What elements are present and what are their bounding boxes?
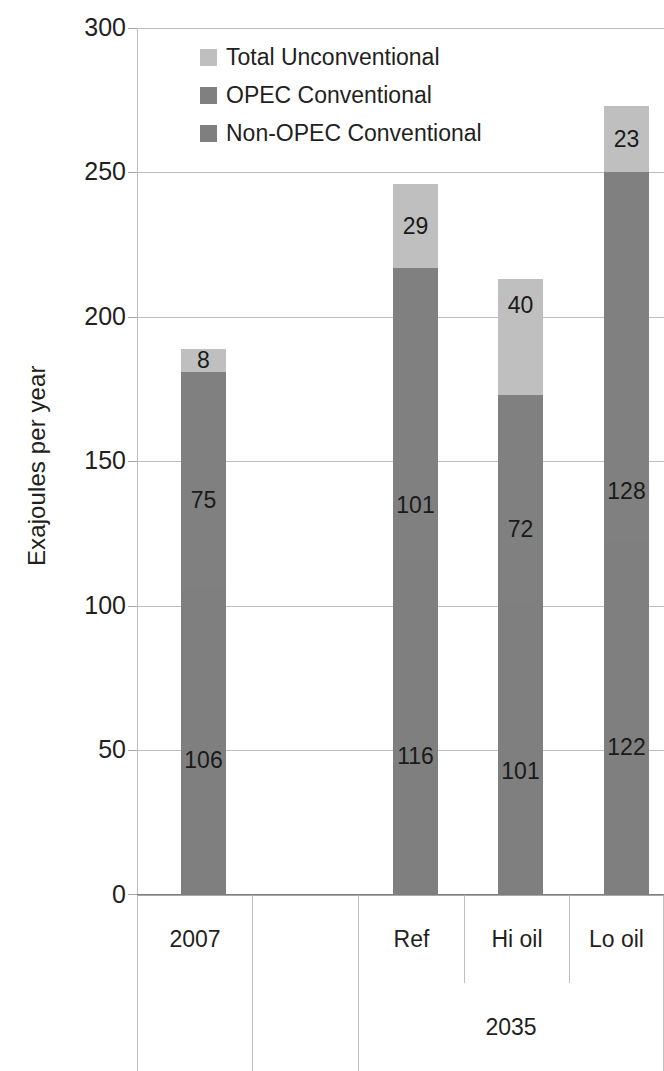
legend-label-opec-conventional: OPEC Conventional [226,84,432,107]
bar-lo-oil-segment-opec-conventional: 128 [604,172,649,542]
y-tick-150: 150 [46,448,126,473]
y-tick-250: 250 [46,159,126,184]
bar-ref-label-opec: 101 [396,494,434,517]
category-axis-row-year: 2035 [137,983,664,1071]
y-tick-300: 300 [46,15,126,40]
legend-item-total-unconventional: Total Unconventional [200,38,530,76]
bar-ref-segment-total-unconventional: 29 [393,184,438,268]
bar-hi-oil-segment-total-unconventional: 40 [498,279,543,395]
legend-label-non-opec-conventional: Non-OPEC Conventional [226,122,482,145]
legend-swatch-icon-total-unconventional [200,49,217,66]
bar-ref-label-non-opec: 116 [397,745,434,768]
bar-hi-oil-segment-non-opec-conventional: 101 [498,603,543,895]
bar-lo-oil-segment-total-unconventional: 23 [604,106,649,172]
category-axis-row-scenarios: 2007 Ref Hi oil Lo oil [137,895,664,983]
bar-2007-segment-opec-conventional: 75 [181,372,226,589]
bar-2007: 106 75 8 [181,349,226,895]
chart-legend: Total Unconventional OPEC Conventional N… [200,38,530,152]
year-cell-blank-2 [252,983,358,1071]
tick-300 [128,28,137,29]
bar-2007-segment-total-unconventional: 8 [181,349,226,372]
category-cell-hi-oil: Hi oil [464,895,569,983]
legend-item-non-opec-conventional: Non-OPEC Conventional [200,114,530,152]
tick-200 [128,317,137,318]
bar-ref-segment-opec-conventional: 101 [393,268,438,560]
bar-ref-segment-non-opec-conventional: 116 [393,560,438,895]
bar-hi-oil-label-opec: 72 [508,518,534,541]
gridline-300 [137,28,664,29]
legend-swatch-icon-non-opec-conventional [200,125,217,142]
bar-lo-oil-label-unconventional: 23 [614,128,640,151]
bar-hi-oil-label-non-opec: 101 [501,760,539,783]
bar-hi-oil: 101 72 40 [498,279,543,895]
category-cell-2007: 2007 [137,895,252,983]
bar-hi-oil-segment-opec-conventional: 72 [498,395,543,603]
plot-area: Total Unconventional OPEC Conventional N… [137,28,664,895]
y-axis-tick-labels: 300 250 200 150 100 50 0 [40,28,126,895]
bar-2007-label-non-opec: 106 [184,749,222,772]
category-cell-lo-oil: Lo oil [569,895,664,983]
bar-2007-segment-non-opec-conventional: 106 [181,589,226,895]
gridline-250 [137,172,664,173]
tick-100 [128,606,137,607]
bar-ref: 116 101 29 [393,184,438,895]
y-tick-0: 0 [46,882,126,907]
bar-2007-label-opec: 75 [191,489,217,512]
bar-hi-oil-label-unconventional: 40 [508,294,534,317]
bar-lo-oil: 122 128 23 [604,106,649,895]
category-axis-table: 2007 Ref Hi oil Lo oil 2035 [137,895,664,1071]
y-tick-100: 100 [46,593,126,618]
bar-lo-oil-segment-non-opec-conventional: 122 [604,542,649,895]
y-tick-50: 50 [46,737,126,762]
bar-lo-oil-label-non-opec: 122 [607,736,645,759]
bar-lo-oil-label-opec: 128 [607,480,645,503]
tick-50 [128,750,137,751]
year-cell-2035: 2035 [358,983,664,1071]
legend-swatch-icon-opec-conventional [200,87,217,104]
y-tick-200: 200 [46,304,126,329]
bar-2007-label-unconventional: 8 [197,349,210,372]
tick-150 [128,461,137,462]
stacked-bar-chart: Exajoules per year 300 250 200 150 100 5… [0,0,664,1071]
year-cell-blank-1 [137,983,252,1071]
category-cell-blank [252,895,358,983]
legend-item-opec-conventional: OPEC Conventional [200,76,530,114]
tick-0 [128,894,137,895]
legend-label-total-unconventional: Total Unconventional [226,46,440,69]
category-cell-ref: Ref [358,895,464,983]
tick-250 [128,172,137,173]
bar-ref-label-unconventional: 29 [403,215,429,238]
